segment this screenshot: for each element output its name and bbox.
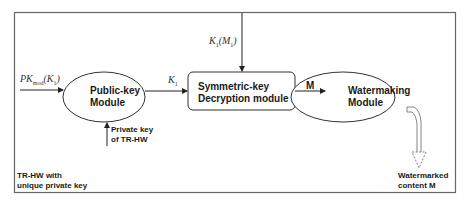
k1m1-close: ) — [233, 35, 236, 46]
symmetric-key-module-line1: Symmetric-key — [198, 81, 289, 93]
k1m1-arg: (M — [219, 35, 231, 46]
public-key-module-label: Public-key Module — [90, 85, 140, 109]
k1-subscript: 1 — [175, 81, 178, 87]
k1m1-symbol: K — [209, 35, 216, 46]
diagram-canvas: Public-key Module Symmetric-key Decrypti… — [0, 0, 467, 202]
m-label: M — [306, 80, 314, 92]
public-key-module-line2: Module — [90, 97, 140, 109]
output-line1: Watermarked — [398, 171, 448, 181]
symmetric-key-module-line2: Decryption module — [198, 93, 289, 105]
input-pk-label: PKmod(K1) — [20, 73, 60, 86]
symmetric-key-module-label: Symmetric-key Decryption module — [198, 81, 289, 105]
watermarking-module-line2: Module — [348, 97, 410, 109]
watermarking-module-line1: Watermaking — [348, 85, 410, 97]
k1-symbol: K — [168, 74, 175, 85]
output-label: Watermarked content M — [398, 171, 448, 191]
pk-close: ) — [56, 73, 59, 84]
output-arrow — [407, 107, 426, 168]
tr-hw-container-label: TR-HW with unique private key — [17, 171, 87, 191]
k1-m1-label: K1(M1) — [209, 35, 237, 48]
watermarking-module-label: Watermaking Module — [348, 85, 410, 109]
container-label-line1: TR-HW with — [17, 171, 87, 181]
pk-symbol: PK — [20, 73, 33, 84]
pk-subscript: mod — [33, 80, 44, 86]
private-key-line2: of TR-HW — [111, 135, 153, 145]
k1-label: K1 — [168, 74, 178, 87]
output-line2: content M — [398, 181, 448, 191]
public-key-module-line1: Public-key — [90, 85, 140, 97]
pk-arg: (K — [43, 73, 53, 84]
private-key-line1: Private key — [111, 125, 153, 135]
container-label-line2: unique private key — [17, 181, 87, 191]
private-key-label: Private key of TR-HW — [111, 125, 153, 145]
